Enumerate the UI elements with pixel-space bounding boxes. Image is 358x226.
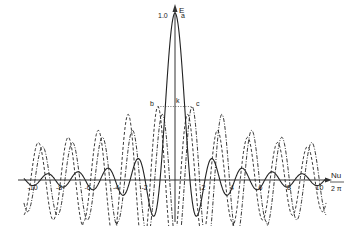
- point-b-label: b: [150, 100, 154, 107]
- point-c-label: c: [196, 100, 200, 107]
- point-a-label: a: [181, 12, 185, 19]
- x-tick-label: -10: [28, 184, 38, 191]
- x-tick-label: 6: [259, 184, 263, 191]
- x-tick-label: 2: [202, 184, 206, 191]
- x-axis-label-denominator: 2 π: [331, 185, 342, 192]
- y-axis-arrow-icon: [173, 4, 178, 12]
- x-tick-label: 4: [230, 184, 234, 191]
- x-tick-label: -2: [142, 184, 148, 191]
- peak-value-label: 1.0: [158, 12, 168, 19]
- axes: [18, 4, 332, 222]
- diffraction-chart: -10-8-6-4-2246810 E 1.0 a b k c Nu 2 π: [0, 0, 358, 226]
- x-tick-label: 8: [287, 184, 291, 191]
- point-k-label: k: [176, 97, 180, 104]
- x-tick-label: -6: [85, 184, 91, 191]
- x-tick-label: -4: [113, 184, 119, 191]
- x-tick-label: -8: [56, 184, 62, 191]
- x-axis-label-numerator: Nu: [331, 171, 341, 180]
- x-tick-label: 10: [316, 184, 324, 191]
